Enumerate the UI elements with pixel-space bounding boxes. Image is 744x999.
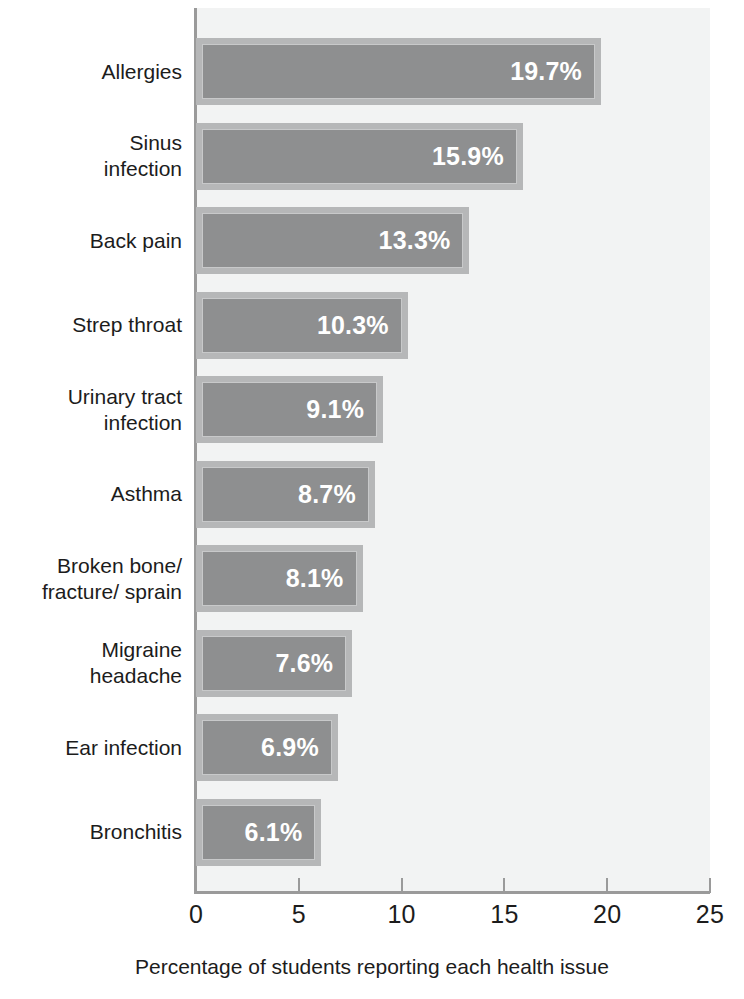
x-axis-tick bbox=[709, 878, 711, 893]
bar: 9.1% bbox=[196, 376, 383, 443]
category-label: Urinary tractinfection bbox=[0, 384, 182, 436]
bar-row: Broken bone/fracture/ sprain8.1% bbox=[0, 545, 744, 612]
bar-value-label: 13.3% bbox=[379, 226, 463, 255]
category-label: Back pain bbox=[0, 228, 182, 254]
category-label-line: Ear infection bbox=[0, 735, 182, 761]
x-axis-tick bbox=[503, 878, 505, 893]
x-axis-line bbox=[194, 891, 710, 894]
category-label: Allergies bbox=[0, 59, 182, 85]
bar-fill: 19.7% bbox=[202, 44, 595, 99]
category-label-line: infection bbox=[0, 156, 182, 182]
category-label: Strep throat bbox=[0, 312, 182, 338]
horizontal-bar-chart: Allergies19.7%Sinusinfection15.9%Back pa… bbox=[0, 0, 744, 999]
category-label: Ear infection bbox=[0, 735, 182, 761]
bar-row: Urinary tractinfection9.1% bbox=[0, 376, 744, 443]
bar-fill: 10.3% bbox=[202, 298, 402, 353]
x-axis-tick-label: 25 bbox=[680, 900, 740, 929]
bar-fill: 6.9% bbox=[202, 720, 332, 775]
x-axis-tick bbox=[606, 878, 608, 893]
category-label-line: Back pain bbox=[0, 228, 182, 254]
bar-value-label: 9.1% bbox=[306, 395, 376, 424]
x-axis-tick-label: 15 bbox=[474, 900, 534, 929]
bar-fill: 7.6% bbox=[202, 636, 346, 691]
bar: 15.9% bbox=[196, 123, 523, 190]
bar-row: Asthma8.7% bbox=[0, 461, 744, 528]
category-label-line: Broken bone/ bbox=[0, 553, 182, 579]
bar-value-label: 6.9% bbox=[261, 733, 331, 762]
bar: 19.7% bbox=[196, 38, 601, 105]
x-axis-tick-label: 5 bbox=[269, 900, 329, 929]
category-label-line: Urinary tract bbox=[0, 384, 182, 410]
bar-row: Allergies19.7% bbox=[0, 38, 744, 105]
x-axis-tick-label: 10 bbox=[372, 900, 432, 929]
bar-value-label: 10.3% bbox=[317, 311, 401, 340]
category-label: Asthma bbox=[0, 481, 182, 507]
bar-fill: 9.1% bbox=[202, 382, 377, 437]
bar: 8.1% bbox=[196, 545, 363, 612]
category-label: Bronchitis bbox=[0, 819, 182, 845]
category-label-line: infection bbox=[0, 410, 182, 436]
bar-row: Bronchitis6.1% bbox=[0, 799, 744, 866]
bar-fill: 8.7% bbox=[202, 467, 369, 522]
bar-row: Sinusinfection15.9% bbox=[0, 123, 744, 190]
bar-fill: 8.1% bbox=[202, 551, 357, 606]
bar: 8.7% bbox=[196, 461, 375, 528]
bar-row: Back pain13.3% bbox=[0, 207, 744, 274]
category-label: Broken bone/fracture/ sprain bbox=[0, 553, 182, 605]
bar-fill: 15.9% bbox=[202, 129, 517, 184]
x-axis-tick bbox=[298, 878, 300, 893]
category-label-line: fracture/ sprain bbox=[0, 579, 182, 605]
bar-row: Migraineheadache7.6% bbox=[0, 630, 744, 697]
category-label: Sinusinfection bbox=[0, 130, 182, 182]
bar-fill: 13.3% bbox=[202, 213, 463, 268]
category-label-line: Asthma bbox=[0, 481, 182, 507]
bar-fill: 6.1% bbox=[202, 805, 315, 860]
x-axis-tick-label: 20 bbox=[577, 900, 637, 929]
bar: 7.6% bbox=[196, 630, 352, 697]
category-label: Migraineheadache bbox=[0, 637, 182, 689]
x-axis-tick bbox=[195, 878, 197, 893]
category-label-line: Allergies bbox=[0, 59, 182, 85]
bar-value-label: 19.7% bbox=[510, 57, 594, 86]
bar-value-label: 8.7% bbox=[298, 480, 368, 509]
bar-value-label: 8.1% bbox=[286, 564, 356, 593]
bar-value-label: 6.1% bbox=[245, 818, 315, 847]
category-label-line: headache bbox=[0, 663, 182, 689]
bar-value-label: 7.6% bbox=[275, 649, 345, 678]
bar: 6.1% bbox=[196, 799, 321, 866]
bar: 10.3% bbox=[196, 292, 408, 359]
x-axis-tick bbox=[401, 878, 403, 893]
category-label-line: Strep throat bbox=[0, 312, 182, 338]
bar-value-label: 15.9% bbox=[432, 142, 516, 171]
bar: 6.9% bbox=[196, 714, 338, 781]
bar-row: Ear infection6.9% bbox=[0, 714, 744, 781]
x-axis-tick-label: 0 bbox=[166, 900, 226, 929]
category-label-line: Migraine bbox=[0, 637, 182, 663]
bar: 13.3% bbox=[196, 207, 469, 274]
bar-row: Strep throat10.3% bbox=[0, 292, 744, 359]
category-label-line: Sinus bbox=[0, 130, 182, 156]
x-axis-title: Percentage of students reporting each he… bbox=[0, 955, 744, 979]
category-label-line: Bronchitis bbox=[0, 819, 182, 845]
